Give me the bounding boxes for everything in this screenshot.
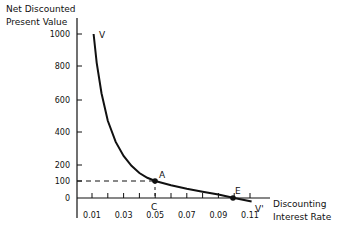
y-tick-label: 800: [55, 62, 70, 71]
y-axis-label-line2: Present Value: [6, 17, 68, 27]
x-tick-label: 0.05: [146, 211, 164, 220]
y-axis-label-line1: Net Discounted: [6, 4, 75, 14]
x-tick-label: 0.01: [83, 211, 101, 220]
npv-curve: [94, 34, 252, 201]
x-tick-label: 0.03: [115, 211, 133, 220]
y-tick-label: 0: [65, 194, 70, 203]
x-axis-label-line1: Discounting: [273, 199, 326, 209]
y-tick-label: 100: [55, 177, 70, 186]
y-tick-label: 600: [55, 96, 70, 105]
npv-chart: Net Discounted Present Value 01002004006…: [0, 0, 347, 235]
point-a: [152, 178, 158, 184]
annotation-a: A: [159, 170, 166, 180]
x-tick-label: 0.07: [178, 211, 196, 220]
y-tick-label: 1000: [50, 30, 70, 39]
annotation-c: C: [151, 202, 157, 212]
x-tick-label: 0.09: [209, 211, 227, 220]
point-e: [230, 195, 236, 201]
annotation-v-prime: V': [255, 204, 264, 214]
y-tick-label: 400: [55, 128, 70, 137]
annotation-v: V: [99, 30, 106, 40]
y-tick-label: 200: [55, 161, 70, 170]
x-axis-label-line2: Interest Rate: [273, 212, 332, 222]
annotation-e: E: [235, 186, 241, 196]
